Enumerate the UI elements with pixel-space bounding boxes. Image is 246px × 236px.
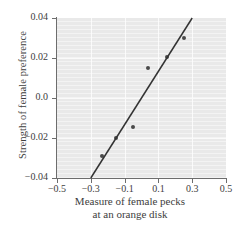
regression-line: [91, 18, 192, 178]
x-axis-title-line-1: Measure of female pecks: [30, 195, 230, 208]
x-axis-title-line-2: at an orange disk: [30, 208, 230, 221]
x-axis-title: Measure of female pecks at an orange dis…: [30, 195, 230, 221]
chart-figure: Strength of female preference −0.04−0.02…: [0, 0, 246, 236]
